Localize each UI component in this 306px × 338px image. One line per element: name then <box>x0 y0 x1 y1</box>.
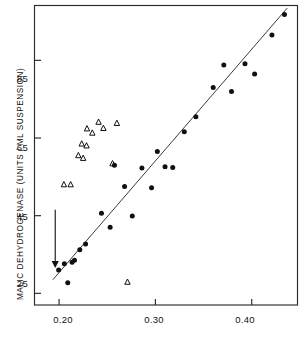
data-point-circle <box>65 280 70 285</box>
data-point-triangle <box>96 119 101 124</box>
data-point-circle <box>62 261 67 266</box>
data-point-circle <box>170 165 175 170</box>
data-point-circle <box>221 63 226 68</box>
data-point-circle <box>252 71 257 76</box>
data-point-circle <box>163 164 168 169</box>
data-point-circle <box>77 247 82 252</box>
y-tick-marks <box>35 60 41 293</box>
data-point-circle <box>193 114 198 119</box>
data-point-circle <box>282 12 287 17</box>
data-point-triangle <box>79 141 84 146</box>
data-point-circle <box>56 268 61 273</box>
data-point-circle <box>182 129 187 134</box>
data-point-circle <box>108 225 113 230</box>
data-point-triangle <box>76 152 81 157</box>
plot-area <box>0 0 306 338</box>
down-arrow-head <box>52 261 59 268</box>
data-point-triangle <box>84 126 89 131</box>
down-arrow-annotation <box>52 210 59 268</box>
data-point-circle <box>99 211 104 216</box>
data-point-triangle <box>68 182 73 187</box>
x-tick-marks <box>59 299 252 305</box>
data-point-circle <box>229 89 234 94</box>
data-point-circle <box>155 149 160 154</box>
data-point-circle <box>130 214 135 219</box>
data-point-triangle <box>125 279 130 284</box>
data-point-circle <box>242 61 247 66</box>
data-point-circle <box>122 184 127 189</box>
data-point-triangle <box>101 125 106 130</box>
regression-line-segment <box>53 8 288 280</box>
data-point-triangle <box>84 143 89 148</box>
data-point-circle <box>149 185 154 190</box>
regression-line <box>53 8 288 280</box>
data-point-triangle <box>61 182 66 187</box>
filled-circle-markers <box>56 12 287 285</box>
scatter-plot-figure: MALIC DEHYDROGENASE (UNITS / ML SUSPENSI… <box>0 0 306 338</box>
data-point-triangle <box>90 130 95 135</box>
data-point-triangle <box>114 120 119 125</box>
data-point-triangle <box>80 155 85 160</box>
data-point-circle <box>139 165 144 170</box>
data-point-circle <box>269 33 274 38</box>
data-point-circle <box>83 242 88 247</box>
data-point-circle <box>72 258 77 263</box>
data-point-circle <box>211 85 216 90</box>
